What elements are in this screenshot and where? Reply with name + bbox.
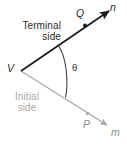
angle-arc xyxy=(58,45,67,98)
vertex-v-label: V xyxy=(7,63,14,74)
initial-side-label: Initial side xyxy=(12,92,42,113)
point-p-dot xyxy=(86,112,89,115)
point-q-label: Q xyxy=(76,8,84,19)
point-p-label: P xyxy=(83,119,90,130)
point-q-dot xyxy=(83,24,87,28)
terminal-side-label-line1: Terminal xyxy=(22,20,61,31)
ray-m-label: m xyxy=(111,127,120,138)
terminal-side-label: Terminal side xyxy=(15,21,61,42)
initial-side-label-line1: Initial xyxy=(15,91,39,102)
terminal-side-label-line2: side xyxy=(15,32,61,43)
angle-diagram-figure: Terminal side Initial side n Q m P θ V xyxy=(0,0,127,146)
initial-side-label-line2: side xyxy=(12,103,42,114)
ray-n-label: n xyxy=(110,2,116,13)
angle-theta-label: θ xyxy=(72,63,77,73)
